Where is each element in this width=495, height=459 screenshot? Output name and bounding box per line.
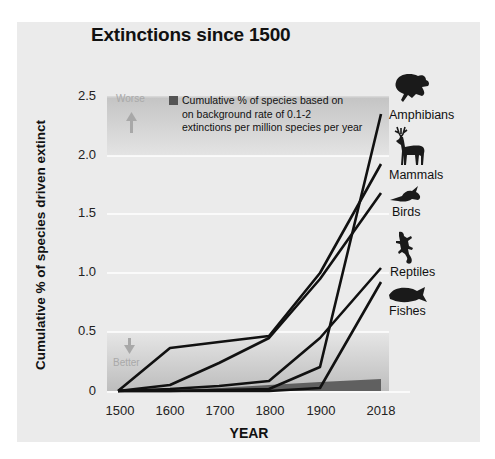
fish-icon	[387, 285, 433, 305]
label-fishes: Fishes	[389, 304, 426, 318]
y-tick: 2.5	[66, 88, 96, 103]
x-axis-label: YEAR	[230, 425, 269, 441]
label-birds: Birds	[392, 205, 420, 219]
legend-line-3: extinctions per million species per year	[182, 121, 362, 135]
x-tick: 1500	[106, 403, 135, 418]
y-tick: 0.5	[66, 323, 96, 338]
worse-label: Worse	[116, 93, 145, 104]
bird-icon	[388, 184, 424, 206]
y-tick: 1.5	[66, 205, 96, 220]
lizard-icon	[393, 230, 419, 266]
x-tick: 1600	[156, 403, 185, 418]
label-mammals: Mammals	[389, 168, 443, 182]
x-tick: 2018	[367, 403, 396, 418]
label-reptiles: Reptiles	[390, 265, 435, 279]
label-amphibians: Amphibians	[389, 108, 454, 122]
better-label: Better	[113, 357, 140, 368]
background-rate-legend: Cumulative % of species based on on back…	[182, 94, 362, 135]
x-tick: 1800	[256, 403, 285, 418]
y-tick: 1.0	[66, 264, 96, 279]
y-tick: 2.0	[66, 147, 96, 162]
deer-icon	[391, 125, 427, 167]
y-tick: 0	[66, 383, 96, 398]
legend-line-1: Cumulative % of species based on	[182, 94, 362, 108]
legend-line-2: on background rate of 0.1-2	[182, 108, 362, 122]
x-tick: 1700	[206, 403, 235, 418]
legend-swatch	[169, 96, 178, 105]
x-tick: 1900	[307, 403, 336, 418]
frog-icon	[392, 72, 432, 106]
